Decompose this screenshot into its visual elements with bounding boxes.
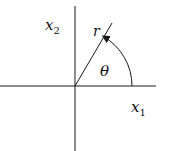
radius-label: r bbox=[93, 23, 101, 39]
x2-axis-label: x2 bbox=[45, 16, 60, 36]
x1-axis-label: x1 bbox=[131, 98, 146, 118]
polar-diagram: x2 x1 r θ bbox=[0, 0, 170, 151]
theta-label: θ bbox=[100, 62, 109, 80]
